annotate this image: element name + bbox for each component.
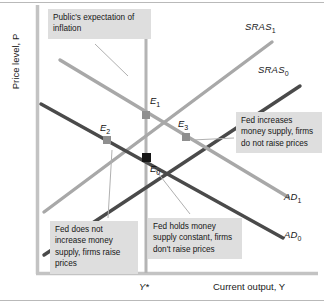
ad1-label-text: AD — [284, 191, 298, 202]
equilibrium-label-E3-sub: 3 — [184, 124, 188, 131]
ad1-label-sub: 1 — [298, 197, 302, 204]
leader-fed-increases — [192, 138, 234, 140]
sras0-label-sub: 0 — [285, 70, 289, 77]
ad0-label-text: AD — [284, 229, 298, 240]
ad0-label: AD0 — [284, 229, 302, 242]
aggregate-supply-demand-figure: Price level, P Current output, Y Y* SRAS… — [0, 0, 324, 302]
leader-public-expectation — [95, 44, 128, 76]
equilibrium-marker-E1 — [142, 111, 150, 119]
leader-fed-does-not-increase — [108, 150, 112, 218]
annotation-public-expectation: Public's expectation of inflation — [48, 9, 151, 39]
equilibrium-label-E2: E2 — [100, 122, 110, 135]
sras1-label: SRAS1 — [245, 21, 276, 34]
annotation-fed-does-not-increase: Fed does not increase money supply, firm… — [50, 221, 138, 274]
equilibrium-label-E0-sub: 0 — [156, 169, 160, 176]
x-axis-label: Current output, Y — [213, 281, 285, 292]
annotation-fed-increases: Fed increases money supply, firms do not… — [236, 112, 322, 153]
equilibrium-marker-E3 — [182, 133, 190, 141]
equilibrium-label-E1: E1 — [150, 95, 160, 108]
equilibrium-marker-E0 — [142, 153, 151, 162]
sras0-label-text: SRAS — [258, 64, 285, 75]
sras1-label-sub: 1 — [272, 27, 276, 34]
sras1-label-text: SRAS — [245, 21, 272, 32]
y-star-label: Y* — [139, 281, 149, 292]
equilibrium-label-E2-sub: 2 — [106, 128, 110, 135]
annotation-fed-holds-constant: Fed holds money supply constant, firms d… — [148, 218, 242, 259]
ad1-label: AD1 — [284, 191, 302, 204]
sras0-label: SRAS0 — [258, 64, 289, 77]
ad0-label-sub: 0 — [298, 235, 302, 242]
equilibrium-marker-E2 — [103, 136, 111, 144]
equilibrium-label-E1-sub: 1 — [156, 101, 160, 108]
y-axis-label: Price level, P — [10, 19, 21, 105]
equilibrium-label-E3: E3 — [178, 118, 188, 131]
equilibrium-label-E0: E0 — [150, 163, 160, 176]
